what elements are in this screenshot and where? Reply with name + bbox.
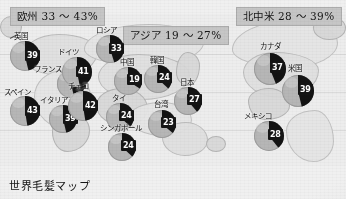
pie-value-spain: 43 bbox=[25, 105, 40, 116]
country-label-czech: チェコ bbox=[68, 82, 89, 91]
pie-value-uk: 39 bbox=[25, 50, 40, 61]
figure-caption: 世界毛髪マップ bbox=[9, 177, 90, 193]
country-label-canada: カナダ bbox=[260, 42, 281, 51]
country-label-taiwan: 台湾 bbox=[154, 100, 168, 109]
pie-value-mexico: 28 bbox=[268, 129, 283, 140]
country-label-china: 中国 bbox=[120, 58, 134, 67]
pie-value-japan: 27 bbox=[187, 94, 202, 105]
landmass-south-america bbox=[286, 110, 334, 162]
country-label-italy: イタリア bbox=[40, 96, 68, 105]
country-label-japan: 日本 bbox=[180, 78, 194, 87]
pie-value-usa: 39 bbox=[298, 84, 313, 95]
country-label-singapore: シンガポール bbox=[100, 124, 142, 133]
pie-value-germany: 41 bbox=[76, 66, 91, 77]
region-banner-asia-label: アジア 19 〜 27% bbox=[130, 29, 222, 41]
pie-value-taiwan: 23 bbox=[161, 117, 176, 128]
world-hair-map-figure: 欧州 33 〜 43% アジア 19 〜 27% 北中米 28 〜 39% 英国… bbox=[0, 0, 346, 199]
pie-value-czech: 42 bbox=[83, 100, 98, 111]
pie-value-singapore: 24 bbox=[121, 140, 136, 151]
pie-value-canada: 37 bbox=[270, 62, 285, 73]
country-label-france: フランス bbox=[34, 65, 62, 74]
landmass-new-zealand bbox=[206, 136, 226, 152]
region-banner-europe-label: 欧州 33 〜 43% bbox=[17, 10, 98, 22]
pie-value-china: 19 bbox=[127, 74, 142, 85]
region-banner-asia: アジア 19 〜 27% bbox=[123, 26, 229, 45]
pie-gloss-czech bbox=[70, 93, 83, 103]
pie-gloss-canada bbox=[257, 55, 270, 66]
pie-gloss-usa bbox=[285, 77, 298, 88]
country-label-thailand: タイ bbox=[112, 94, 126, 103]
pie-gloss-spain bbox=[12, 98, 25, 108]
country-label-mexico: メキシコ bbox=[244, 112, 272, 121]
pie-gloss-uk bbox=[12, 43, 25, 53]
region-banner-americas: 北中米 28 〜 39% bbox=[236, 7, 342, 26]
country-label-russia: ロシア bbox=[96, 26, 117, 35]
pie-value-russia: 33 bbox=[109, 43, 124, 54]
pie-value-thailand: 24 bbox=[119, 110, 134, 121]
country-label-usa: 米国 bbox=[288, 64, 302, 73]
country-label-korea: 韓国 bbox=[150, 56, 164, 65]
pie-gloss-italy bbox=[51, 107, 63, 117]
country-label-germany: ドイツ bbox=[58, 48, 79, 57]
region-banner-europe: 欧州 33 〜 43% bbox=[10, 7, 105, 26]
pie-value-korea: 24 bbox=[157, 72, 172, 83]
region-banner-americas-label: 北中米 28 〜 39% bbox=[243, 10, 335, 22]
